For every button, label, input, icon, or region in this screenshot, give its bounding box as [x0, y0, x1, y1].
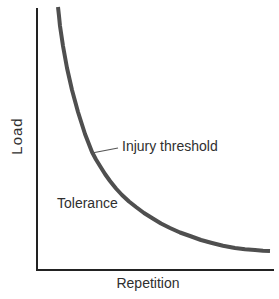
injury-threshold-curve	[58, 7, 270, 251]
y-axis-label: Load	[9, 117, 26, 154]
tolerance-label: Tolerance	[57, 196, 118, 211]
injury-threshold-label: Injury threshold	[122, 139, 218, 154]
x-axis-label: Repetition	[116, 276, 179, 291]
leader-line	[92, 148, 118, 153]
load-repetition-diagram: Load Repetition Injury threshold Toleran…	[0, 0, 279, 299]
